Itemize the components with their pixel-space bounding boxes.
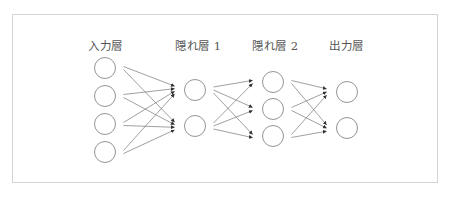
connection-arrow	[124, 126, 175, 128]
connection-arrow	[292, 95, 327, 134]
network-diagram	[0, 0, 450, 197]
connection-arrow	[124, 89, 175, 95]
connection-arrow	[124, 98, 175, 125]
connection-arrow	[292, 84, 327, 125]
node-hidden-2-2	[263, 99, 284, 120]
node-output-1	[337, 82, 358, 103]
connection-arrow	[292, 111, 327, 129]
node-input-2	[95, 86, 116, 107]
node-input-1	[95, 58, 116, 79]
node-hidden-1-1	[185, 80, 206, 101]
connection-arrow	[292, 131, 327, 137]
connection-arrow	[214, 93, 253, 134]
connection-arrow	[214, 111, 253, 126]
node-input-4	[95, 142, 116, 163]
node-hidden-1-2	[185, 116, 206, 137]
connection-arrow	[292, 92, 327, 108]
node-input-3	[95, 114, 116, 135]
connection-arrow	[214, 84, 253, 123]
connection-arrow	[214, 129, 253, 138]
node-hidden-2-3	[263, 126, 284, 147]
connection-arrow	[214, 80, 253, 87]
node-output-2	[337, 118, 358, 139]
node-hidden-2-1	[263, 72, 284, 93]
connection-arrow	[124, 67, 175, 87]
connection-arrow	[292, 81, 327, 89]
